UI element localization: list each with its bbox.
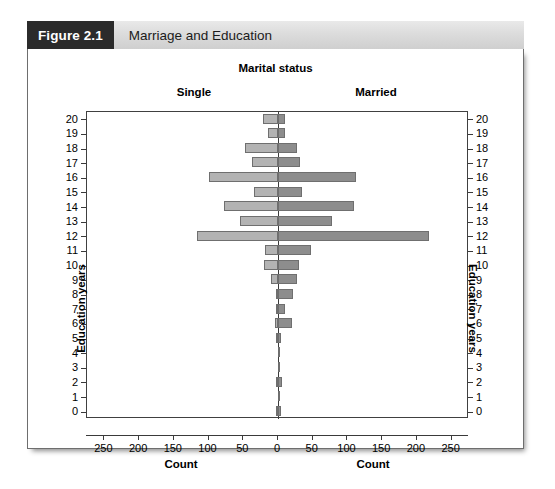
y-tick-label-right-4: 4 — [476, 348, 498, 359]
bar-married-7 — [278, 304, 285, 314]
bar-single-20 — [263, 114, 278, 124]
y-tick-left-18 — [81, 149, 86, 150]
bar-row — [87, 331, 469, 344]
bar-married-3 — [278, 362, 280, 372]
bar-row — [87, 200, 469, 213]
y-tick-label-left-16: 16 — [56, 172, 78, 183]
y-tick-label-right-6: 6 — [476, 318, 498, 329]
y-tick-label-right-12: 12 — [476, 231, 498, 242]
bar-married-4 — [278, 347, 280, 357]
y-tick-label-right-0: 0 — [476, 406, 498, 417]
y-tick-right-13 — [468, 222, 473, 223]
plot-area: 20191817161514131211109876543210 2019181… — [86, 111, 468, 418]
y-tick-left-16 — [81, 178, 86, 179]
y-tick-right-11 — [468, 251, 473, 252]
bar-row — [87, 185, 469, 198]
chart-title: Marital status — [28, 62, 523, 74]
y-tick-left-12 — [81, 236, 86, 237]
bar-row — [87, 273, 469, 286]
bar-row — [87, 141, 469, 154]
y-tick-left-17 — [81, 163, 86, 164]
y-axis-title-right: Education years — [467, 264, 479, 353]
y-tick-label-left-1: 1 — [56, 392, 78, 403]
bar-married-8 — [278, 289, 293, 299]
bar-married-5 — [278, 333, 281, 343]
y-tick-label-right-7: 7 — [476, 304, 498, 315]
bar-married-16 — [278, 172, 356, 182]
bar-row — [87, 156, 469, 169]
y-tick-right-1 — [468, 397, 473, 398]
bar-row — [87, 404, 469, 417]
bar-married-19 — [278, 128, 285, 138]
bar-row — [87, 302, 469, 315]
y-tick-left-14 — [81, 207, 86, 208]
bar-row — [87, 258, 469, 271]
y-tick-right-14 — [468, 207, 473, 208]
x-tick-left-100 — [208, 435, 209, 440]
y-tick-label-left-20: 20 — [56, 114, 78, 125]
y-tick-label-right-9: 9 — [476, 275, 498, 286]
y-tick-label-right-16: 16 — [476, 172, 498, 183]
x-tick-right-100 — [346, 435, 347, 440]
bar-row — [87, 346, 469, 359]
x-tick-label-right-250: 250 — [431, 442, 471, 454]
bar-single-14 — [224, 201, 278, 211]
y-tick-label-right-14: 14 — [476, 202, 498, 213]
x-tick-left-200 — [138, 435, 139, 440]
population-pyramid-chart: Marital status Single Married 2019181716… — [28, 49, 523, 447]
y-tick-label-right-5: 5 — [476, 333, 498, 344]
y-tick-left-20 — [81, 119, 86, 120]
y-tick-left-13 — [81, 222, 86, 223]
bar-married-15 — [278, 187, 302, 197]
y-tick-label-left-11: 11 — [56, 245, 78, 256]
y-tick-left-2 — [81, 382, 86, 383]
panel-label-single: Single — [134, 86, 254, 98]
y-tick-right-3 — [468, 368, 473, 369]
y-tick-label-left-0: 0 — [56, 406, 78, 417]
bar-married-10 — [278, 260, 299, 270]
y-tick-label-right-18: 18 — [476, 143, 498, 154]
y-tick-label-left-17: 17 — [56, 158, 78, 169]
y-tick-label-left-12: 12 — [56, 231, 78, 242]
x-axis-title-left: Count — [136, 458, 226, 470]
panel-label-married: Married — [316, 86, 436, 98]
x-tick-left-150 — [173, 435, 174, 440]
y-tick-label-right-19: 19 — [476, 128, 498, 139]
bar-row — [87, 244, 469, 257]
bar-single-15 — [254, 187, 278, 197]
bar-single-16 — [209, 172, 278, 182]
y-tick-label-left-14: 14 — [56, 202, 78, 213]
y-tick-label-left-18: 18 — [56, 143, 78, 154]
x-tick-left-0 — [277, 435, 278, 440]
figure-caption: Marriage and Education — [114, 21, 272, 49]
figure-header: Figure 2.1 Marriage and Education — [27, 21, 524, 49]
x-axis-title-right: Count — [328, 458, 418, 470]
bar-married-6 — [278, 318, 292, 328]
y-tick-label-left-15: 15 — [56, 187, 78, 198]
bar-row — [87, 229, 469, 242]
y-tick-label-right-20: 20 — [476, 114, 498, 125]
y-tick-label-left-3: 3 — [56, 362, 78, 373]
bar-row — [87, 170, 469, 183]
y-tick-label-left-19: 19 — [56, 128, 78, 139]
x-tick-left-50 — [242, 435, 243, 440]
y-tick-left-3 — [81, 368, 86, 369]
y-tick-label-right-15: 15 — [476, 187, 498, 198]
bar-married-1 — [278, 391, 280, 401]
y-tick-right-0 — [468, 412, 473, 413]
y-tick-right-4 — [468, 353, 473, 354]
y-axis-title-left: Education years — [75, 264, 87, 353]
bar-row — [87, 390, 469, 403]
y-tick-label-right-11: 11 — [476, 245, 498, 256]
y-tick-right-15 — [468, 192, 473, 193]
bar-row — [87, 112, 469, 125]
figure-card: Figure 2.1 Marriage and Education Marita… — [27, 21, 524, 449]
y-tick-label-right-17: 17 — [476, 158, 498, 169]
bar-married-0 — [278, 406, 281, 416]
bar-single-11 — [265, 245, 278, 255]
figure-body: Marital status Single Married 2019181716… — [27, 49, 524, 449]
x-tick-right-150 — [381, 435, 382, 440]
y-tick-right-16 — [468, 178, 473, 179]
x-tick-right-250 — [451, 435, 452, 440]
bar-married-17 — [278, 157, 300, 167]
